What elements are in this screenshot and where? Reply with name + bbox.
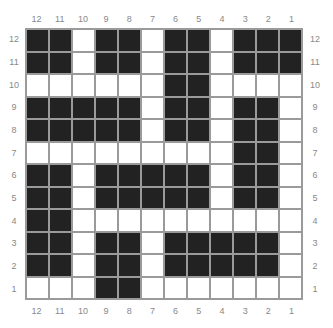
filled-cell — [119, 255, 140, 276]
row-label: 5 — [305, 187, 325, 210]
empty-cell — [188, 278, 209, 299]
filled-cell — [234, 30, 255, 51]
filled-cell — [257, 120, 278, 141]
filled-cell — [234, 53, 255, 74]
filled-cell — [27, 120, 48, 141]
column-labels-top: 121110987654321 — [25, 14, 303, 24]
empty-cell — [257, 210, 278, 231]
empty-cell — [73, 188, 94, 209]
filled-cell — [165, 165, 186, 186]
empty-cell — [211, 165, 232, 186]
column-label: 8 — [118, 14, 141, 24]
empty-cell — [142, 120, 163, 141]
filled-cell — [234, 98, 255, 119]
filled-cell — [257, 53, 278, 74]
filled-cell — [50, 120, 71, 141]
filled-cell — [96, 188, 117, 209]
empty-cell — [73, 165, 94, 186]
filled-cell — [165, 75, 186, 96]
empty-cell — [257, 278, 278, 299]
filled-cell — [165, 233, 186, 254]
filled-cell — [188, 53, 209, 74]
column-label: 12 — [25, 14, 48, 24]
row-label: 10 — [305, 73, 325, 96]
row-label: 9 — [4, 96, 24, 119]
empty-cell — [142, 30, 163, 51]
column-label: 2 — [257, 306, 280, 316]
stitch-chart: 121110987654321 121110987654321 12111098… — [0, 0, 333, 328]
empty-cell — [96, 75, 117, 96]
column-label: 6 — [164, 306, 187, 316]
filled-cell — [280, 53, 301, 74]
empty-cell — [211, 210, 232, 231]
empty-cell — [257, 75, 278, 96]
filled-cell — [27, 233, 48, 254]
empty-cell — [73, 210, 94, 231]
empty-cell — [142, 75, 163, 96]
filled-cell — [234, 165, 255, 186]
row-label: 10 — [4, 73, 24, 96]
empty-cell — [50, 278, 71, 299]
empty-cell — [211, 98, 232, 119]
empty-cell — [280, 210, 301, 231]
filled-cell — [27, 255, 48, 276]
filled-cell — [165, 30, 186, 51]
empty-cell — [280, 233, 301, 254]
column-label: 5 — [187, 14, 210, 24]
empty-cell — [142, 143, 163, 164]
empty-cell — [165, 143, 186, 164]
empty-cell — [211, 278, 232, 299]
filled-cell — [280, 30, 301, 51]
empty-cell — [280, 278, 301, 299]
empty-cell — [280, 143, 301, 164]
filled-cell — [119, 120, 140, 141]
empty-cell — [73, 255, 94, 276]
empty-cell — [142, 255, 163, 276]
empty-cell — [73, 53, 94, 74]
filled-cell — [188, 75, 209, 96]
empty-cell — [27, 278, 48, 299]
filled-cell — [27, 53, 48, 74]
row-label: 5 — [4, 187, 24, 210]
filled-cell — [27, 188, 48, 209]
filled-cell — [188, 165, 209, 186]
column-labels-bottom: 121110987654321 — [25, 306, 303, 316]
filled-cell — [234, 233, 255, 254]
filled-cell — [27, 98, 48, 119]
row-label: 3 — [305, 232, 325, 255]
filled-cell — [142, 188, 163, 209]
filled-cell — [96, 30, 117, 51]
filled-cell — [96, 98, 117, 119]
empty-cell — [142, 233, 163, 254]
column-label: 1 — [280, 14, 303, 24]
filled-cell — [119, 165, 140, 186]
filled-cell — [119, 233, 140, 254]
filled-cell — [234, 255, 255, 276]
empty-cell — [280, 255, 301, 276]
empty-cell — [27, 143, 48, 164]
empty-cell — [119, 143, 140, 164]
column-label: 1 — [280, 306, 303, 316]
empty-cell — [280, 120, 301, 141]
column-label: 3 — [234, 306, 257, 316]
chart-grid — [25, 28, 303, 300]
row-label: 8 — [4, 119, 24, 142]
filled-cell — [50, 188, 71, 209]
empty-cell — [73, 233, 94, 254]
filled-cell — [50, 255, 71, 276]
row-label: 11 — [305, 51, 325, 74]
filled-cell — [96, 255, 117, 276]
row-label: 3 — [4, 232, 24, 255]
filled-cell — [142, 165, 163, 186]
row-label: 4 — [305, 209, 325, 232]
empty-cell — [188, 210, 209, 231]
filled-cell — [257, 98, 278, 119]
filled-cell — [211, 255, 232, 276]
filled-cell — [27, 30, 48, 51]
filled-cell — [73, 120, 94, 141]
row-label: 7 — [4, 141, 24, 164]
filled-cell — [27, 165, 48, 186]
filled-cell — [165, 98, 186, 119]
empty-cell — [211, 75, 232, 96]
filled-cell — [257, 143, 278, 164]
